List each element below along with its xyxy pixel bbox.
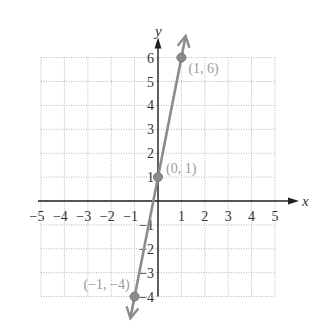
x-tick-label: 1 <box>178 209 185 224</box>
y-axis-arrow-icon <box>155 38 162 49</box>
y-tick-label: 2 <box>147 146 154 161</box>
line-graph: xy −5−4−3−2−112345−4−3−2−1123456 (−1, −4… <box>0 0 317 321</box>
x-tick-label: −1 <box>123 209 138 224</box>
x-tick-label: −4 <box>53 209 68 224</box>
x-axis-label: x <box>301 193 309 209</box>
data-point <box>130 292 139 301</box>
y-tick-label: 3 <box>147 122 154 137</box>
axes: xy <box>38 23 309 297</box>
data-point <box>154 173 163 182</box>
x-tick-label: 5 <box>272 209 279 224</box>
x-tick-label: 2 <box>201 209 208 224</box>
y-tick-label: 5 <box>147 75 154 90</box>
point-label: (−1, −4) <box>83 277 129 293</box>
x-axis-arrow-icon <box>288 198 299 205</box>
y-tick-label: 1 <box>147 170 154 185</box>
y-tick-label: 6 <box>147 51 154 66</box>
y-axis-label: y <box>153 23 162 39</box>
x-tick-label: 4 <box>248 209 255 224</box>
point-label: (1, 6) <box>188 61 219 77</box>
y-tick-label: −4 <box>139 290 154 305</box>
x-tick-label: −3 <box>76 209 91 224</box>
point-label: (0, 1) <box>166 161 197 177</box>
x-tick-label: −2 <box>100 209 115 224</box>
x-tick-label: 3 <box>225 209 232 224</box>
data-point <box>177 53 186 62</box>
x-tick-label: −5 <box>30 209 45 224</box>
y-tick-label: 4 <box>147 98 154 113</box>
y-tick-label: −2 <box>139 242 154 257</box>
